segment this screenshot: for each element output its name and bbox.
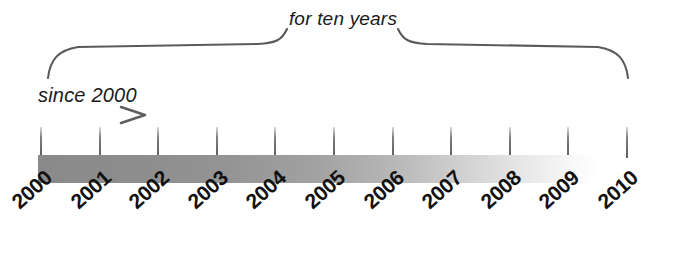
axis-tick (333, 127, 335, 158)
axis-tick (99, 127, 101, 158)
axis-tick (216, 127, 218, 158)
axis-tick (626, 127, 628, 158)
axis-tick (509, 127, 511, 158)
axis-tick (40, 127, 42, 158)
axis-tick (392, 127, 394, 158)
axis-tick (157, 127, 159, 158)
axis-tick (274, 127, 276, 158)
axis-tick (450, 127, 452, 158)
axis-tick (567, 127, 569, 158)
axis-ticks (0, 0, 688, 273)
timeline-diagram: for ten years since 2000 200020012002200… (0, 0, 688, 273)
